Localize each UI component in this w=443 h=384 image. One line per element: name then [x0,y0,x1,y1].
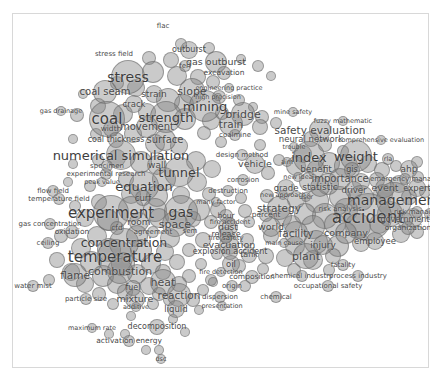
term-label[interactable]: injury [310,241,335,250]
term-label[interactable]: heat [151,277,176,288]
term-label[interactable]: dispersion [202,294,238,301]
term-label[interactable]: flame [60,270,90,281]
term-label[interactable]: specimen [90,163,124,170]
term-label[interactable]: main cause [265,240,302,247]
term-label[interactable]: stress field [95,51,133,58]
term-label[interactable]: flow field [37,188,69,195]
term-label[interactable]: stress [107,70,148,84]
term-cooccurrence-map: flacstress fieldoutburstgas outburstferi… [0,0,443,384]
term-label[interactable]: new idea [283,174,312,181]
term-label[interactable]: many factor [196,199,235,206]
term-label[interactable]: rla [384,156,392,163]
term-label[interactable]: train [219,119,243,130]
term-label[interactable]: dsc [155,356,166,363]
term-label[interactable]: maximum rate [68,325,116,332]
term-label[interactable]: mine safety [274,109,312,116]
term-label[interactable]: organization [385,224,430,232]
term-label[interactable]: width [101,125,122,133]
term-label[interactable]: weight [334,150,378,163]
term-label[interactable]: flac [157,23,170,30]
term-label[interactable]: slope [177,86,206,97]
term-label[interactable]: coal thickness [88,136,145,144]
term-label[interactable]: feri [179,63,191,70]
term-label[interactable]: water mist [14,283,51,290]
term-label[interactable]: equation [115,180,172,193]
term-label[interactable]: gas drainage [40,108,82,115]
term-label[interactable]: occupational safety [294,283,363,290]
term-label[interactable]: coal seam [80,87,131,97]
term-label[interactable]: fire safety [208,235,243,242]
term-label[interactable]: facility [279,228,314,239]
term-label[interactable]: curf [135,194,152,203]
term-label[interactable]: decomposition [128,323,187,331]
term-label[interactable]: coalmine [219,132,251,139]
term-label[interactable]: explosion accident [193,248,268,256]
term-label[interactable]: ceiling [37,240,60,247]
term-label[interactable]: activation energy [96,337,162,345]
term-label[interactable]: comprehensive evaluation [338,137,424,144]
term-label[interactable]: cfd [111,224,123,232]
term-label[interactable]: reaction [158,290,201,301]
term-label[interactable]: temperature field [28,196,89,203]
map-frame-border: flacstress fieldoutburstgas outburstferi… [12,13,429,368]
term-label[interactable]: chemical [260,294,291,301]
term-label[interactable]: gas outburst [186,57,246,67]
term-label[interactable]: experimental research [67,171,146,178]
term-label[interactable]: destruction [208,188,248,195]
term-label[interactable]: origin [222,283,242,290]
term-label[interactable]: index [291,151,327,164]
term-label[interactable]: vehicle [238,159,272,169]
term-label[interactable]: employee [354,237,396,246]
term-label[interactable]: additive [123,304,149,311]
term-label[interactable]: tunnel [158,166,199,179]
term-label[interactable]: fire accident [210,219,250,226]
term-label-layer: flacstress fieldoutburstgas outburstferi… [13,14,430,369]
term-label[interactable]: expert [403,184,430,193]
term-label[interactable]: temperature [68,250,162,265]
term-label[interactable]: process industry [329,273,387,280]
term-label[interactable]: strain [141,90,167,99]
term-label[interactable]: outburst [172,46,206,54]
term-label[interactable]: movement [120,122,174,132]
term-label[interactable]: presentation [201,303,242,310]
term-label[interactable]: fuel [125,284,140,292]
term-label[interactable]: liquid [164,305,187,314]
term-label[interactable]: crack [123,100,146,109]
term-label[interactable]: aim [281,159,293,166]
term-label[interactable]: room [127,218,150,227]
term-label[interactable]: chemical industry [271,273,333,280]
term-label[interactable]: particle size [65,296,107,303]
term-label[interactable]: statistic [302,183,337,192]
term-label[interactable]: user [299,194,313,201]
term-label[interactable]: numerical simulation [53,149,190,162]
term-label[interactable]: percent [252,211,281,219]
term-label[interactable]: ahp [401,165,418,174]
term-label[interactable]: excavation [204,69,245,77]
term-label[interactable]: combustion [88,266,152,277]
term-label[interactable]: plant [292,251,320,262]
term-label[interactable]: composition [229,273,275,281]
term-label[interactable]: fatality [331,262,356,269]
term-label[interactable]: surface [147,135,184,145]
map-plot-area[interactable]: flacstress fieldoutburstgas outburstferi… [13,14,430,369]
term-label[interactable]: corrosion [227,177,259,184]
term-label[interactable]: sem [183,228,198,235]
